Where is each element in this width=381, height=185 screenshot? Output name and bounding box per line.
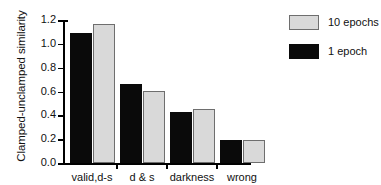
bar-10epochs-darkness [193,109,215,163]
bars-layer [64,20,251,163]
y-tick-label: 0.4 [41,108,56,120]
y-tick-mark [58,20,63,22]
x-tick-label-d-s: d & s [129,171,154,183]
legend-label-1-epoch: 1 epoch [328,45,367,57]
y-tick-mark [58,92,63,94]
bar-10epochs-d-s [143,91,165,163]
bar-10epochs-wrong [243,140,265,163]
y-tick-label: 0.6 [41,85,56,97]
x-tick-label-valid-ds: valid,d-s [72,171,113,183]
plot-area: 0.0 0.2 0.4 0.6 0.8 1.0 1.2 [63,20,251,163]
legend-item-10-epochs: 10 epochs [289,12,379,32]
x-tick-mark [166,164,168,169]
y-tick-mark [58,68,63,70]
x-tick-label-wrong: wrong [227,171,257,183]
bar-1epoch-d-s [120,84,142,163]
legend-item-1-epoch: 1 epoch [289,41,379,61]
y-tick-mark [58,115,63,117]
y-tick-mark [58,139,63,141]
x-tick-mark [216,164,218,169]
bar-chart-figure: Clamped-unclamped similarity 0.0 0.2 0.4… [0,0,381,185]
y-tick-label: 1.2 [41,13,56,25]
x-tick-mark [116,164,118,169]
y-tick-label: 0.0 [41,156,56,168]
legend-swatch-10-epochs [289,15,319,30]
y-axis-title: Clamped-unclamped similarity [15,1,27,171]
chart-legend: 10 epochs 1 epoch [289,12,379,70]
legend-swatch-1-epoch [289,44,319,59]
legend-label-10-epochs: 10 epochs [328,16,379,28]
bar-1epoch-darkness [170,112,192,163]
bar-1epoch-valid-ds [70,33,92,163]
x-axis-line [63,163,251,165]
y-tick-mark [58,163,63,165]
bar-1epoch-wrong [220,140,242,163]
y-tick-mark [58,44,63,46]
y-tick-label: 0.2 [41,132,56,144]
y-tick-label: 0.8 [41,61,56,73]
x-tick-label-darkness: darkness [170,171,215,183]
bar-10epochs-valid-ds [93,24,115,163]
y-tick-label: 1.0 [41,37,56,49]
